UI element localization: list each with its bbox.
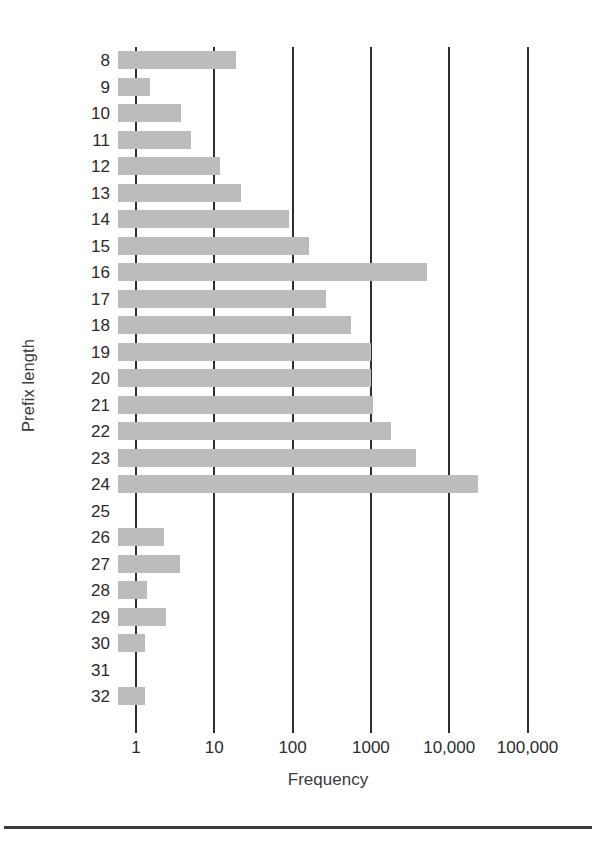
bar (118, 555, 180, 573)
x-tick-label: 1000 (352, 738, 390, 758)
bar (118, 157, 220, 175)
chart-row: 9 (118, 74, 538, 101)
y-tick-label: 17 (91, 290, 110, 307)
y-tick-label: 15 (91, 237, 110, 254)
chart-row: 20 (118, 365, 538, 392)
x-tick-label: 1 (131, 738, 140, 758)
bar (118, 449, 416, 467)
bar (118, 608, 166, 626)
chart-row: 11 (118, 127, 538, 154)
y-tick-label: 29 (91, 608, 110, 625)
chart-row: 21 (118, 392, 538, 419)
y-tick-label: 31 (91, 661, 110, 678)
chart-row: 15 (118, 233, 538, 260)
y-tick-label: 27 (91, 555, 110, 572)
bar (118, 581, 147, 599)
chart-row: 29 (118, 604, 538, 631)
chart-row: 22 (118, 418, 538, 445)
bar (118, 369, 371, 387)
y-tick-label: 8 (101, 52, 110, 69)
bar (118, 78, 150, 96)
chart-row: 23 (118, 445, 538, 472)
x-tick-mark (135, 720, 137, 733)
y-tick-label: 16 (91, 264, 110, 281)
chart-row: 32 (118, 683, 538, 710)
bar (118, 237, 309, 255)
y-tick-label: 19 (91, 343, 110, 360)
x-tick-mark (213, 720, 215, 733)
y-tick-label: 32 (91, 688, 110, 705)
x-tick-label: 10 (205, 738, 224, 758)
chart-row: 27 (118, 551, 538, 578)
bar (118, 210, 289, 228)
chart-row: 13 (118, 180, 538, 207)
x-tick-mark (370, 720, 372, 733)
bar (118, 687, 145, 705)
chart-row: 10 (118, 100, 538, 127)
chart-row: 24 (118, 471, 538, 498)
bar (118, 422, 391, 440)
bar (118, 396, 373, 414)
chart-row: 18 (118, 312, 538, 339)
chart-row: 31 (118, 657, 538, 684)
y-tick-label: 21 (91, 396, 110, 413)
bar (118, 51, 236, 69)
bar (118, 263, 427, 281)
bar (118, 184, 241, 202)
y-tick-label: 25 (91, 502, 110, 519)
chart-row: 28 (118, 577, 538, 604)
chart-row: 12 (118, 153, 538, 180)
bar (118, 343, 371, 361)
bar (118, 316, 351, 334)
bottom-rule-divider (4, 826, 592, 829)
y-tick-label: 30 (91, 635, 110, 652)
bar (118, 475, 478, 493)
y-tick-label: 18 (91, 317, 110, 334)
y-tick-label: 9 (101, 78, 110, 95)
x-tick-mark (292, 720, 294, 733)
bar (118, 104, 181, 122)
y-tick-label: 14 (91, 211, 110, 228)
y-tick-label: 26 (91, 529, 110, 546)
y-tick-label: 11 (92, 131, 110, 148)
plot-area: 8910111213141516171819202122232425262728… (118, 47, 538, 720)
y-tick-label: 24 (91, 476, 110, 493)
y-tick-label: 22 (91, 423, 110, 440)
y-tick-label: 28 (91, 582, 110, 599)
x-axis-title: Frequency (118, 770, 538, 790)
bar (118, 290, 326, 308)
chart-row: 17 (118, 286, 538, 313)
chart-row: 25 (118, 498, 538, 525)
bar (118, 131, 191, 149)
chart-row: 19 (118, 339, 538, 366)
y-tick-label: 13 (91, 184, 110, 201)
y-axis-title: Prefix length (19, 286, 38, 486)
x-tick-label: 100,000 (497, 738, 558, 758)
y-tick-label: 10 (91, 105, 110, 122)
chart-row: 16 (118, 259, 538, 286)
bar (118, 634, 145, 652)
y-tick-label: 12 (91, 158, 110, 175)
chart-row: 14 (118, 206, 538, 233)
chart-row: 26 (118, 524, 538, 551)
bar-chart-figure: Prefix length 89101112131415161718192021… (0, 0, 597, 843)
x-tick-mark (527, 720, 529, 733)
y-tick-label: 20 (91, 370, 110, 387)
x-tick-label: 10,000 (423, 738, 475, 758)
x-tick-label: 100 (278, 738, 306, 758)
y-tick-label: 23 (91, 449, 110, 466)
chart-row: 8 (118, 47, 538, 74)
x-tick-mark (448, 720, 450, 733)
bar (118, 528, 164, 546)
chart-row: 30 (118, 630, 538, 657)
